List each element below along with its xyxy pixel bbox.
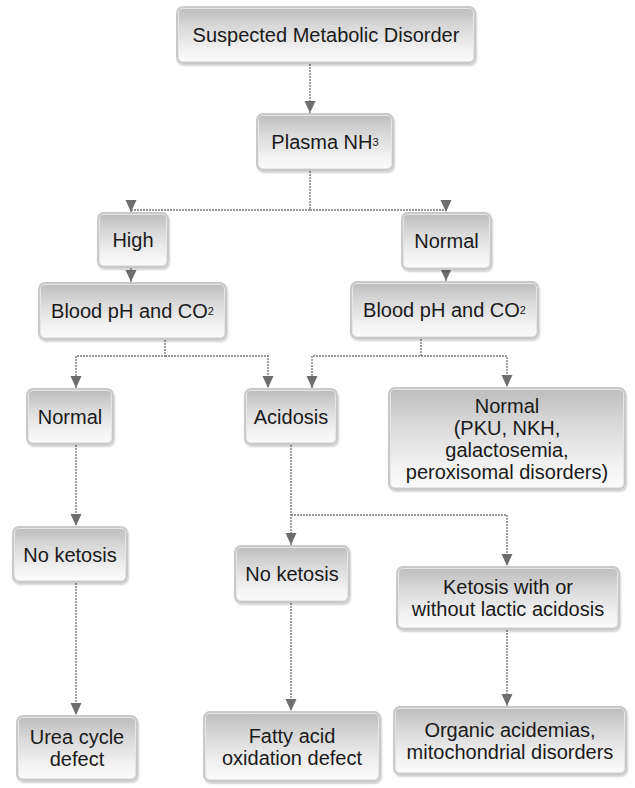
node-label: Blood pH and CO [363, 299, 520, 321]
connector-line [421, 356, 507, 387]
node-organic-acidemias: Organic acidemias, mitochondrial disorde… [393, 706, 627, 775]
node-label: Normal [38, 406, 102, 428]
arrowhead-icon [71, 376, 82, 388]
arrowhead-icon [307, 376, 318, 388]
flowchart-canvas: Suspected Metabolic Disorder Plasma NH3 … [0, 0, 635, 788]
node-label: No ketosis [23, 544, 116, 566]
node-acidosis: Acidosis [244, 388, 338, 445]
node-label: Suspected Metabolic Disorder [193, 24, 460, 46]
connector-line [76, 340, 165, 388]
node-label: Normal [414, 230, 478, 252]
arrowhead-icon [286, 533, 297, 545]
arrowhead-icon [286, 699, 297, 711]
arrowhead-icon [263, 376, 274, 388]
arrowhead-icon [441, 269, 452, 281]
arrowhead-icon [126, 270, 137, 282]
connector-line [165, 356, 268, 388]
connector-line [131, 171, 310, 212]
node-label: Urea cycle defect [30, 726, 124, 770]
node-normal-nh3: Normal [401, 212, 492, 270]
node-label: Organic acidemias, mitochondrial disorde… [407, 719, 614, 763]
arrowhead-icon [71, 514, 82, 526]
node-normal-left: Normal [26, 388, 114, 445]
node-label: Normal (PKU, NKH, galactosemia, peroxiso… [406, 395, 608, 483]
node-label: Fatty acid oxidation defect [222, 725, 362, 769]
node-blood-ph-co2-right: Blood pH and CO2 [350, 281, 539, 339]
node-no-ketosis-left: No ketosis [12, 526, 128, 583]
node-blood-ph-co2-left: Blood pH and CO2 [38, 282, 227, 340]
node-label: No ketosis [245, 563, 338, 585]
arrowhead-icon [502, 375, 513, 387]
node-ketosis-lactic-acidosis: Ketosis with or without lactic acidosis [396, 566, 620, 630]
arrowhead-icon [305, 101, 316, 113]
node-plasma-nh3: Plasma NH3 [256, 113, 394, 171]
node-no-ketosis-middle: No ketosis [234, 545, 350, 603]
node-label: Ketosis with or without lactic acidosis [412, 576, 604, 620]
node-fatty-acid-oxidation-defect: Fatty acid oxidation defect [203, 711, 381, 782]
connector-line [312, 339, 421, 388]
arrowhead-icon [71, 703, 82, 715]
node-label: Blood pH and CO [51, 300, 208, 322]
node-high: High [97, 212, 169, 268]
arrowhead-icon [502, 554, 513, 566]
node-urea-cycle-defect: Urea cycle defect [16, 715, 138, 781]
arrowhead-icon [502, 694, 513, 706]
node-label: Acidosis [254, 406, 328, 428]
node-label: Plasma NH [271, 131, 372, 153]
node-suspected-metabolic-disorder: Suspected Metabolic Disorder [176, 6, 476, 64]
node-normal-pku-nkh: Normal (PKU, NKH, galactosemia, peroxiso… [388, 387, 626, 490]
node-label: High [112, 229, 153, 251]
